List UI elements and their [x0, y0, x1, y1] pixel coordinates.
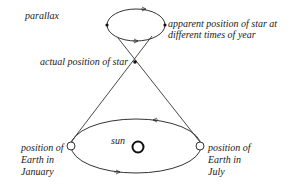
july-label-line2: Earth in: [208, 154, 241, 166]
apparent-position-ellipse: [107, 9, 165, 41]
january-label-line1: position of: [21, 142, 64, 154]
arrow-top-small: [141, 7, 146, 11]
earth-orbit-ellipse: [71, 119, 201, 173]
july-label-line1: position of: [208, 142, 251, 154]
arrow-top-orbit: [153, 118, 158, 122]
parallax-label: parallax: [25, 10, 59, 22]
earth-july-icon: [196, 142, 204, 150]
apparent-position-label-line2: different times of year: [168, 29, 256, 41]
july-label-line3: July: [208, 166, 225, 178]
arrow-bottom-small: [133, 39, 138, 43]
sun-label: sun: [111, 135, 125, 147]
actual-star-dot: [133, 60, 137, 64]
actual-position-label: actual position of star: [40, 56, 128, 68]
earth-january-icon: [67, 142, 75, 150]
apparent-position-dot-left: [105, 23, 108, 26]
apparent-position-dot-right: [163, 23, 166, 26]
sight-line-july: [118, 38, 200, 142]
sight-line-january: [71, 36, 152, 142]
parallax-diagram: parallax apparent position of star at di…: [0, 0, 294, 186]
arrow-bottom-orbit: [114, 170, 120, 174]
january-label-line2: Earth in: [21, 154, 54, 166]
sun-icon: [133, 142, 144, 153]
january-label-line3: January: [21, 166, 54, 178]
